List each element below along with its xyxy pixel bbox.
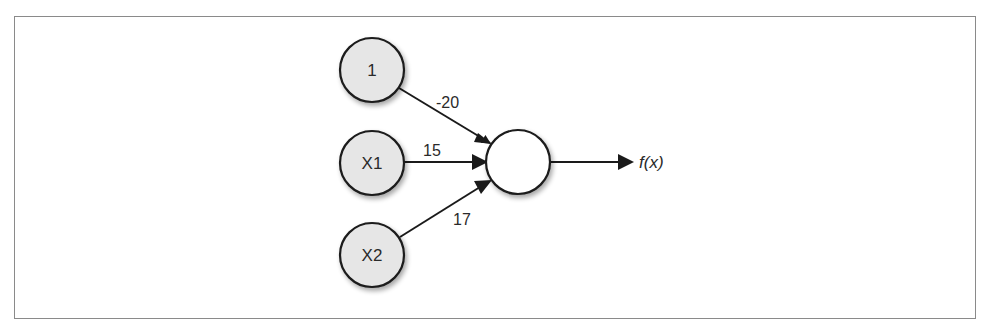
node-label-x2: X2	[362, 246, 383, 265]
weight-label-bias: -20	[436, 94, 459, 111]
weight-label-x1: 15	[423, 142, 441, 159]
edge-x1	[404, 154, 488, 170]
input-node-bias: 1	[340, 38, 404, 102]
output-node	[486, 130, 550, 194]
output-label: f(x)	[639, 153, 664, 172]
input-node-x2: X2	[340, 223, 404, 287]
edge-x2	[400, 180, 492, 237]
input-node-x1: X1	[340, 131, 404, 195]
edge-output	[550, 154, 634, 170]
node-label-bias: 1	[367, 61, 376, 80]
perceptron-diagram: -20 15 17 1 X1 X2 f(x)	[0, 0, 988, 330]
node-label-x1: X1	[362, 154, 383, 173]
weight-label-x2: 17	[453, 211, 471, 228]
